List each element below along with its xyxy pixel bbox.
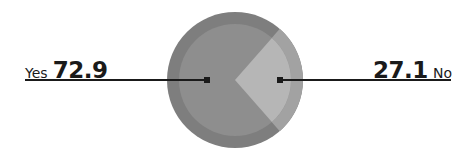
- label-no: 27.1 No: [373, 57, 452, 83]
- label-yes-name: Yes: [25, 65, 48, 81]
- label-yes-value: 72.9: [53, 57, 108, 83]
- leader-marker-yes: [204, 77, 210, 83]
- label-no-name: No: [433, 65, 452, 81]
- label-yes: Yes 72.9: [25, 57, 107, 83]
- leader-marker-no: [277, 77, 283, 83]
- label-no-value: 27.1: [373, 57, 428, 83]
